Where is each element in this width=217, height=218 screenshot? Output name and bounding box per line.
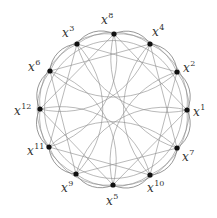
label-base: x bbox=[147, 181, 154, 195]
edge-chord-skip3 bbox=[50, 71, 76, 174]
edge-arc-skip2 bbox=[113, 148, 177, 185]
edge-arc-adjacent bbox=[177, 110, 190, 148]
label-exponent: 10 bbox=[154, 179, 164, 188]
edge-chord-skip3 bbox=[150, 72, 177, 175]
edge-chord-skip3 bbox=[77, 44, 177, 72]
edge-layer bbox=[0, 0, 217, 218]
edge-chord-skip3 bbox=[76, 148, 177, 174]
edge-arc-skip2 bbox=[49, 147, 113, 185]
label-base: x bbox=[152, 25, 159, 39]
node-x2 bbox=[174, 69, 179, 74]
label-exponent: 2 bbox=[190, 59, 195, 68]
node-label-x3: x3 bbox=[62, 25, 74, 39]
label-exponent: 6 bbox=[35, 58, 40, 67]
node-x8 bbox=[111, 31, 116, 36]
node-label-x9: x9 bbox=[61, 180, 73, 194]
edge-arc-adjacent bbox=[77, 31, 114, 44]
node-label-x12: x12 bbox=[14, 103, 31, 117]
node-label-x7: x7 bbox=[182, 149, 194, 163]
label-exponent: 11 bbox=[34, 142, 44, 151]
node-label-x2: x2 bbox=[183, 60, 195, 74]
label-exponent: 1 bbox=[200, 103, 205, 112]
node-x7 bbox=[174, 145, 179, 150]
label-base: x bbox=[61, 181, 68, 195]
label-base: x bbox=[28, 60, 35, 74]
node-label-x4: x4 bbox=[152, 24, 164, 38]
edge-chord-skip3 bbox=[150, 44, 177, 148]
node-label-x5: x5 bbox=[106, 193, 118, 207]
inner-ring bbox=[45, 41, 183, 179]
node-x4 bbox=[147, 41, 152, 46]
node-x3 bbox=[74, 41, 79, 46]
label-exponent: 4 bbox=[159, 23, 164, 32]
label-base: x bbox=[101, 13, 108, 27]
edge-arc-adjacent bbox=[50, 44, 77, 71]
node-label-x1: x1 bbox=[193, 104, 205, 118]
label-exponent: 5 bbox=[113, 192, 118, 201]
label-exponent: 12 bbox=[21, 102, 31, 111]
node-label-x6: x6 bbox=[28, 59, 40, 73]
edge-arc-adjacent bbox=[177, 72, 190, 110]
node-label-x10: x10 bbox=[147, 180, 164, 194]
label-base: x bbox=[183, 61, 190, 75]
label-base: x bbox=[27, 144, 34, 158]
node-label-x11: x11 bbox=[27, 143, 44, 157]
edge-arc-inner bbox=[124, 44, 150, 175]
label-exponent: 7 bbox=[189, 148, 194, 157]
edge-arc-adjacent bbox=[150, 148, 177, 175]
label-base: x bbox=[182, 150, 189, 164]
node-label-x8: x8 bbox=[101, 12, 113, 26]
node-x5 bbox=[110, 182, 115, 187]
label-exponent: 3 bbox=[69, 24, 74, 33]
node-x10 bbox=[147, 172, 152, 177]
node-x11 bbox=[46, 144, 51, 149]
node-x6 bbox=[47, 68, 52, 73]
label-exponent: 9 bbox=[68, 179, 73, 188]
label-base: x bbox=[193, 105, 200, 119]
label-base: x bbox=[106, 194, 113, 208]
diagram-canvas: x8x4x2x1x7x10x5x9x11x12x6x3 bbox=[0, 0, 217, 218]
label-exponent: 8 bbox=[108, 11, 113, 20]
edge-arc-inner bbox=[76, 44, 103, 174]
node-x1 bbox=[184, 107, 189, 112]
edge-arc-adjacent bbox=[150, 44, 177, 72]
edge-arc-adjacent bbox=[114, 31, 150, 44]
edge-arc-skip2 bbox=[50, 34, 114, 71]
label-base: x bbox=[14, 104, 21, 118]
edge-arc-adjacent bbox=[37, 71, 50, 109]
label-base: x bbox=[62, 26, 69, 40]
node-x12 bbox=[37, 106, 42, 111]
node-x9 bbox=[73, 171, 78, 176]
